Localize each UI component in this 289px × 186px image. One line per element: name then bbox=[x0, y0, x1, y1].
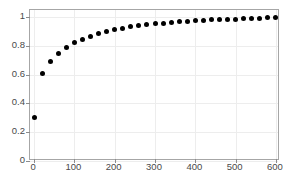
x-tick-label: 100 bbox=[65, 162, 81, 172]
data-point bbox=[169, 20, 174, 25]
x-tick-label: 0 bbox=[30, 162, 35, 172]
x-tick-label: 600 bbox=[267, 162, 283, 172]
gridline-horizontal bbox=[30, 103, 278, 104]
data-point bbox=[209, 17, 214, 22]
data-point bbox=[136, 23, 141, 28]
x-tick-label: 500 bbox=[227, 162, 243, 172]
y-axis-tick-labels: 00.20.40.60.81 bbox=[0, 9, 26, 160]
y-tick-label: 1 bbox=[20, 11, 25, 21]
data-point bbox=[177, 19, 182, 24]
data-point bbox=[233, 17, 238, 22]
data-point bbox=[88, 34, 93, 39]
x-tick-label: 400 bbox=[186, 162, 202, 172]
y-tick-label: 0.8 bbox=[12, 40, 25, 50]
data-point bbox=[112, 27, 117, 32]
data-point bbox=[265, 15, 270, 20]
data-point bbox=[72, 40, 77, 45]
y-tick bbox=[26, 103, 30, 104]
y-tick-label: 0.4 bbox=[12, 98, 25, 108]
gridline-horizontal bbox=[30, 75, 278, 76]
data-point bbox=[96, 31, 101, 36]
data-point bbox=[201, 18, 206, 23]
data-point bbox=[56, 51, 61, 56]
chart-figure: 00.20.40.60.81 0100200300400500600 bbox=[0, 0, 289, 186]
data-point bbox=[161, 21, 166, 26]
data-point bbox=[217, 17, 222, 22]
y-tick-label: 0 bbox=[20, 155, 25, 165]
data-point bbox=[120, 26, 125, 31]
y-tick bbox=[26, 46, 30, 47]
x-axis-tick-labels: 0100200300400500600 bbox=[29, 162, 279, 182]
data-point bbox=[48, 59, 53, 64]
data-point bbox=[241, 16, 246, 21]
x-tick-label: 300 bbox=[146, 162, 162, 172]
data-point bbox=[64, 45, 69, 50]
gridline-vertical bbox=[195, 10, 196, 159]
gridline-vertical bbox=[276, 10, 277, 159]
y-tick bbox=[26, 132, 30, 133]
gridline-vertical bbox=[74, 10, 75, 159]
data-point bbox=[153, 21, 158, 26]
x-tick-label: 200 bbox=[106, 162, 122, 172]
plot-area bbox=[29, 9, 279, 160]
data-point bbox=[128, 24, 133, 29]
gridline-horizontal bbox=[30, 132, 278, 133]
data-point bbox=[273, 15, 278, 20]
data-point bbox=[144, 22, 149, 27]
data-point bbox=[225, 17, 230, 22]
y-tick bbox=[26, 75, 30, 76]
gridline-vertical bbox=[236, 10, 237, 159]
y-tick-label: 0.6 bbox=[12, 69, 25, 79]
gridline-vertical bbox=[115, 10, 116, 159]
y-tick-label: 0.2 bbox=[12, 126, 25, 136]
data-point bbox=[104, 29, 109, 34]
gridline-vertical bbox=[155, 10, 156, 159]
data-point bbox=[40, 71, 45, 76]
data-point bbox=[193, 18, 198, 23]
data-point bbox=[32, 115, 37, 120]
data-point bbox=[249, 16, 254, 21]
gridline-vertical bbox=[34, 10, 35, 159]
data-point bbox=[257, 16, 262, 21]
data-point bbox=[185, 19, 190, 24]
data-point bbox=[80, 37, 85, 42]
y-tick bbox=[26, 17, 30, 18]
